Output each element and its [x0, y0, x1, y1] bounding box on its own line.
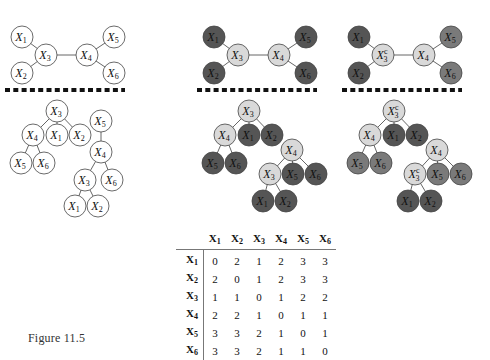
node-x5-panel-left: X5	[90, 110, 112, 132]
table-row: X3110122	[176, 288, 336, 306]
distance-cell: 0	[292, 324, 314, 342]
node-x6-panel-middle: X6	[225, 152, 247, 174]
node-x1-panel-right: X1	[383, 124, 405, 146]
distance-cell: 2	[204, 306, 227, 324]
distance-cell: 1	[292, 342, 314, 360]
distance-cell: 3	[292, 270, 314, 288]
column-header: X6	[314, 231, 336, 250]
column-header: X3	[248, 231, 270, 250]
node-x6-panel-left: X6	[103, 62, 125, 84]
node-x3-panel-middle: X3	[238, 100, 260, 122]
node-x5-panel-left: X5	[103, 26, 125, 48]
node-label: Xc3	[408, 166, 420, 183]
distance-cell: 1	[314, 324, 336, 342]
table-header-row: X1 X2 X3 X4 X5 X6	[176, 231, 336, 250]
node-x5-panel-middle: X5	[202, 152, 224, 174]
distance-cell: 1	[204, 288, 227, 306]
distance-cell: 1	[314, 306, 336, 324]
node-x4-panel-middle: X4	[214, 124, 236, 146]
node-x4-panel-middle: X4	[268, 44, 290, 66]
node-x4-panel-left: X4	[76, 44, 98, 66]
node-x1-panel-right: X1	[348, 26, 370, 48]
node-x6-panel-left: X6	[101, 169, 123, 191]
distance-cell: 1	[248, 306, 270, 324]
distance-cell: 2	[248, 342, 270, 360]
node-x3-panel-left: X3	[46, 100, 68, 122]
node-x2-panel-middle: X2	[275, 190, 297, 212]
node-x1-panel-middle: X1	[252, 190, 274, 212]
distance-cell: 1	[292, 306, 314, 324]
row-header: X1	[176, 250, 204, 271]
node-x2-panel-left: X2	[11, 62, 33, 84]
distance-cell: 2	[314, 288, 336, 306]
row-header: X5	[176, 324, 204, 342]
distance-cell: 1	[270, 324, 292, 342]
row-header: X6	[176, 342, 204, 360]
distance-cell: 0	[204, 250, 227, 271]
node-x4-panel-right: X4	[426, 139, 448, 161]
distance-cell: 2	[248, 324, 270, 342]
node-x5-panel-right: X5	[347, 152, 369, 174]
table-corner-cell	[176, 231, 204, 250]
node-x1-panel-left: X1	[11, 26, 33, 48]
node-x1-panel-left: X1	[64, 195, 86, 217]
distance-cell: 1	[248, 270, 270, 288]
distance-cell: 3	[204, 324, 227, 342]
column-header: X2	[226, 231, 248, 250]
node-x6-panel-middle: X6	[305, 163, 327, 185]
row-header: X2	[176, 270, 204, 288]
column-header: X4	[270, 231, 292, 250]
distance-cell: 3	[226, 342, 248, 360]
node-x5-panel-middle: X5	[295, 26, 317, 48]
distance-cell: 0	[226, 270, 248, 288]
node-x4-panel-right: X4	[413, 44, 435, 66]
distance-cell: 3	[226, 324, 248, 342]
distance-cell: 3	[204, 342, 227, 360]
node-x2-panel-middle: X2	[203, 62, 225, 84]
figure-caption: Figure 11.5	[28, 331, 85, 346]
node-x5-panel-right: X5	[427, 163, 449, 185]
distance-cell: 2	[226, 250, 248, 271]
distance-cell: 2	[226, 306, 248, 324]
node-x3-panel-middle: X3	[259, 163, 281, 185]
node-x2-panel-right: X2	[348, 62, 370, 84]
distance-cell: 3	[292, 250, 314, 271]
node-x1-panel-middle: X1	[238, 124, 260, 146]
column-header: X5	[292, 231, 314, 250]
table-row: X4221011	[176, 306, 336, 324]
node-x6-panel-right: X6	[440, 62, 462, 84]
node-x3-panel-middle: X3	[227, 44, 249, 66]
node-x1-panel-right: X1	[397, 190, 419, 212]
node-x3c-panel-right: Xc3	[404, 163, 426, 185]
column-header: X1	[204, 231, 227, 250]
node-x4-panel-right: X4	[359, 124, 381, 146]
node-label: Xc3	[387, 103, 399, 120]
distance-cell: 2	[204, 270, 227, 288]
node-x2-panel-left: X2	[69, 124, 91, 146]
table-row: X6332110	[176, 342, 336, 360]
node-x5-panel-right: X5	[440, 26, 462, 48]
node-x6-panel-middle: X6	[295, 62, 317, 84]
table-row: X5332101	[176, 324, 336, 342]
distance-cell: 0	[248, 288, 270, 306]
node-x4-panel-left: X4	[22, 124, 44, 146]
node-x1-panel-middle: X1	[203, 26, 225, 48]
distance-cell: 2	[292, 288, 314, 306]
distance-cell: 1	[226, 288, 248, 306]
node-x2-panel-right: X2	[406, 124, 428, 146]
node-x3c-panel-right: Xc3	[372, 44, 394, 66]
distance-cell: 3	[314, 250, 336, 271]
node-x2-panel-left: X2	[87, 195, 109, 217]
node-x3-panel-left: X3	[74, 169, 96, 191]
node-x6-panel-left: X6	[33, 152, 55, 174]
distance-cell: 1	[248, 250, 270, 271]
distance-matrix-table: X1 X2 X3 X4 X5 X6 X1021233X2201233X31101…	[176, 231, 336, 360]
distance-cell: 0	[270, 306, 292, 324]
distance-cell: 1	[270, 342, 292, 360]
distance-cell: 2	[270, 250, 292, 271]
node-x3-panel-left: X3	[35, 44, 57, 66]
row-header: X3	[176, 288, 204, 306]
node-x2-panel-right: X2	[420, 190, 442, 212]
node-x1-panel-left: X1	[46, 124, 68, 146]
table-row: X2201233	[176, 270, 336, 288]
